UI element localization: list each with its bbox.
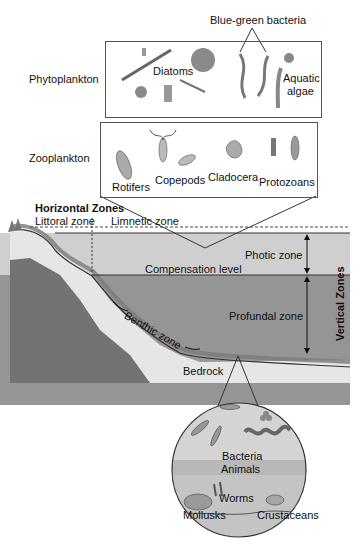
protozoans-label: Protozoans (259, 177, 315, 188)
bacteria-label: Bacteria (222, 451, 262, 462)
littoral-zone-label: Littoral zone (35, 216, 95, 227)
limnetic-zone-label: Limnetic zone (111, 216, 179, 227)
vertical-zones-heading: Vertical Zones (335, 266, 346, 341)
profundal-zone-label: Profundal zone (229, 311, 303, 322)
copepods-label: Copepods (155, 175, 205, 186)
aquatic-algae-label-line2: algae (287, 86, 314, 97)
photic-zone-label: Photic zone (245, 250, 302, 261)
worms-label: Worms (219, 493, 254, 504)
compensation-level-label: Compensation level (145, 264, 242, 275)
cladocera-label: Cladocera (208, 172, 258, 183)
phytoplankton-label: Phytoplankton (29, 74, 99, 85)
rotifers-label: Rotifers (112, 182, 150, 193)
aquatic-algae-label-line1: Aquatic (283, 73, 320, 84)
bedrock-label: Bedrock (183, 366, 223, 377)
diatoms-label: Diatoms (153, 66, 193, 77)
horizontal-zones-heading: Horizontal Zones (35, 203, 124, 214)
mollusks-label: Mollusks (183, 510, 226, 521)
crustaceans-label: Crustaceans (257, 510, 319, 521)
blue-green-bacteria-label: Blue-green bacteria (210, 15, 306, 26)
animals-label: Animals (221, 464, 260, 475)
zooplankton-label: Zooplankton (29, 153, 90, 164)
